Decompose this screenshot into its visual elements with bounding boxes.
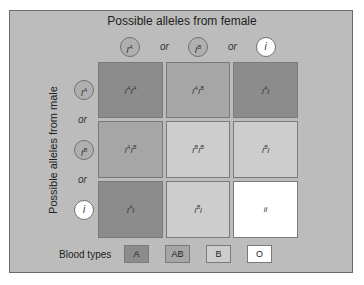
or-label: or bbox=[228, 41, 237, 52]
genotype-label: IAIA bbox=[125, 85, 137, 96]
genotype-cell: IBIB bbox=[166, 121, 230, 178]
allele-superscript: B bbox=[197, 44, 201, 50]
legend-label: Blood types bbox=[59, 249, 111, 260]
genotype-label: IBIB bbox=[192, 144, 204, 155]
male-allele-1: IB bbox=[74, 140, 94, 160]
legend-swatch-ab: AB bbox=[165, 245, 190, 263]
genotype-label: ii bbox=[264, 205, 268, 214]
genotype-label: IAi bbox=[127, 204, 135, 215]
genotype-cell: IBi bbox=[233, 121, 298, 178]
diagram-title: Possible alleles from female bbox=[0, 14, 364, 28]
genotype-cell: IAIB bbox=[166, 62, 230, 118]
or-label: or bbox=[78, 174, 87, 185]
genotype-cell: ii bbox=[233, 181, 298, 238]
legend-swatch-a: A bbox=[124, 245, 149, 263]
genotype-cell: IAIB bbox=[98, 121, 163, 178]
genotype-cell: IAi bbox=[98, 181, 163, 238]
female-allele-2: i bbox=[256, 37, 276, 57]
genotype-label: IBi bbox=[194, 204, 202, 215]
legend-swatch-b: B bbox=[206, 245, 231, 263]
legend-swatch-o: O bbox=[247, 245, 272, 263]
genotype-label: IBi bbox=[262, 144, 270, 155]
genotype-cell: IBi bbox=[166, 181, 230, 238]
genotype-cell: IAi bbox=[233, 62, 298, 118]
or-label: or bbox=[78, 114, 87, 125]
allele-superscript: A bbox=[129, 44, 133, 50]
genotype-label: IAIB bbox=[125, 144, 137, 155]
y-axis-label: Possible alleles from male bbox=[47, 86, 59, 214]
genotype-label: IAi bbox=[262, 85, 270, 96]
female-allele-1: IB bbox=[188, 37, 208, 57]
or-label: or bbox=[160, 41, 169, 52]
genotype-cell: IAIA bbox=[98, 62, 163, 118]
allele-base: i bbox=[83, 204, 85, 215]
male-allele-0: IA bbox=[74, 80, 94, 100]
female-allele-0: IA bbox=[120, 37, 140, 57]
allele-base: i bbox=[264, 41, 266, 52]
genotype-label: IAIB bbox=[192, 85, 204, 96]
allele-superscript: A bbox=[83, 87, 87, 93]
allele-superscript: B bbox=[83, 147, 87, 153]
male-allele-2: i bbox=[74, 200, 94, 220]
